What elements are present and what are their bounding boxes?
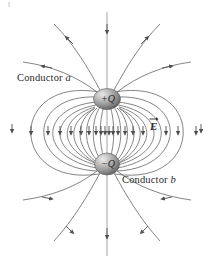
field-loop-right-7 bbox=[118, 105, 154, 165]
efield-symbol: E bbox=[150, 120, 157, 132]
label-conductor-b-text: Conductor bbox=[122, 174, 168, 185]
efield-symbol-wrap: E bbox=[150, 121, 157, 132]
arrow-open-ul-1 bbox=[66, 37, 73, 44]
label-conductor-b: Conductor b bbox=[122, 175, 176, 186]
charge-label-negative: −Q bbox=[101, 158, 115, 169]
field-diagram-figure: Conductor a Conductor b E +Q −Q bbox=[0, 0, 210, 266]
label-electric-field-vector: E bbox=[150, 121, 157, 132]
label-conductor-a-tag: a bbox=[65, 72, 70, 83]
field-loop-left-2 bbox=[93, 107, 100, 159]
field-direction-arrowheads bbox=[12, 37, 201, 233]
field-loop-right-2 bbox=[114, 107, 121, 159]
arrow-open-ll-1 bbox=[66, 226, 73, 233]
field-loop-left-5 bbox=[74, 109, 94, 162]
label-conductor-b-tag: b bbox=[170, 174, 175, 185]
arrow-open-ll-2 bbox=[42, 197, 52, 199]
page-corner-speck bbox=[7, 2, 11, 7]
arrow-open-lr-2 bbox=[162, 197, 172, 199]
field-loop-right-5 bbox=[120, 109, 140, 162]
field-line-canvas bbox=[0, 0, 210, 266]
label-conductor-a: Conductor a bbox=[17, 73, 71, 84]
arrow-open-lr-1 bbox=[141, 226, 148, 233]
charge-label-positive: +Q bbox=[101, 93, 115, 104]
label-conductor-a-text: Conductor bbox=[17, 72, 63, 83]
open-line-upper-right-1 bbox=[114, 24, 160, 90]
arrow-open-ur-2 bbox=[162, 66, 172, 68]
arrow-open-ur-1 bbox=[141, 37, 148, 44]
field-loop-left-7 bbox=[60, 105, 96, 165]
arrow-open-ul-2 bbox=[42, 66, 52, 68]
